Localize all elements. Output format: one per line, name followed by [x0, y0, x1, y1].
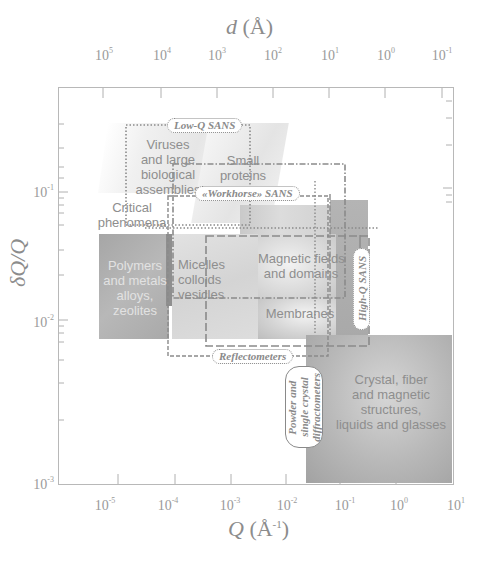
label-polymers: Polymersand metalsalloys,zeolites — [98, 258, 172, 318]
bottom-tick-label: 101 — [447, 496, 465, 514]
instrument-low-q-sans: Low-Q SANS — [167, 118, 242, 133]
bottom-tick-label: 10-5 — [95, 496, 116, 514]
label-crystal: Crystal, fiberand magneticstructures,liq… — [336, 372, 446, 432]
bottom-tick-label: 10-1 — [335, 496, 356, 514]
bottom-tick-label: 10-3 — [220, 496, 241, 514]
instrument-high-q-sans: High-Q SANS — [353, 248, 370, 330]
bottom-tick-label: 100 — [390, 496, 408, 514]
x-axis-title: Q (Å-1) — [228, 516, 289, 542]
label-small-proteins: Smallproteins — [218, 153, 268, 183]
instrument-workhorse-sans: «Workhorse» SANS — [195, 186, 300, 201]
label-magnetic: Magnetic fieldsand domains — [258, 251, 344, 281]
bottom-tick-label: 10-4 — [158, 496, 179, 514]
instrument-powder-diffractometers: Powder and single crystal diffractometer… — [285, 366, 323, 448]
bottom-tick-label: 10-2 — [277, 496, 298, 514]
label-micelles: Micellescolloidsvesicles — [178, 257, 250, 302]
label-critical-phenomena: Criticalphenomena — [92, 200, 172, 230]
instrument-reflectometers: Reflectometers — [212, 349, 293, 364]
label-membranes: Membranes — [260, 306, 340, 321]
